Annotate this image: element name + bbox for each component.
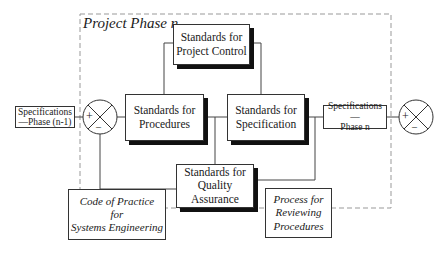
right-junction-plus: + xyxy=(402,109,409,124)
left-junction-minus: – xyxy=(96,121,101,132)
box-label-line: Code of Practice xyxy=(71,195,163,208)
box-label-line: Phase n xyxy=(324,122,386,132)
box-label-line: Procedures xyxy=(134,118,196,132)
left-junction-plus: + xyxy=(86,109,93,124)
specifications-current-phase-box: Specifications—Phase n xyxy=(323,105,387,129)
box-label-line: for xyxy=(71,208,163,221)
box-label-line: Quality xyxy=(184,179,246,193)
code-of-practice-box: Code of PracticeforSystems Engineering xyxy=(68,189,166,240)
box-label-line: Standards for xyxy=(176,31,247,45)
box-label-line: Reviewing xyxy=(273,206,323,219)
box-label-line: Specifications— xyxy=(324,101,386,122)
box-label-line: Specifications xyxy=(18,107,72,117)
box-label-line: —Phase (n-1) xyxy=(18,117,72,127)
process-reviewing-procedures-box: Process forReviewingProcedures xyxy=(265,188,332,238)
box-label-line: Specification xyxy=(235,118,297,132)
box-label-line: Standards for xyxy=(134,104,196,118)
box-label-line: Assurance xyxy=(184,193,246,207)
phase-boundary-title: Project Phase n xyxy=(83,15,178,32)
standards-project-control-box: Standards forProject Control xyxy=(173,24,250,65)
box-label-line: Standards for xyxy=(184,166,246,180)
standards-specification-box: Standards forSpecification xyxy=(227,94,305,141)
box-label-line: Systems Engineering xyxy=(71,221,163,234)
standards-quality-assurance-box: Standards forQualityAssurance xyxy=(176,164,254,208)
specifications-previous-phase-box: Specifications—Phase (n-1) xyxy=(15,106,75,128)
box-label-line: Project Control xyxy=(176,45,247,59)
standards-procedures-box: Standards forProcedures xyxy=(125,94,204,141)
box-label-line: Procedures xyxy=(273,220,323,233)
box-label-line: Standards for xyxy=(235,104,297,118)
right-junction-minus: – xyxy=(412,121,417,132)
box-label-line: Process for xyxy=(273,193,323,206)
